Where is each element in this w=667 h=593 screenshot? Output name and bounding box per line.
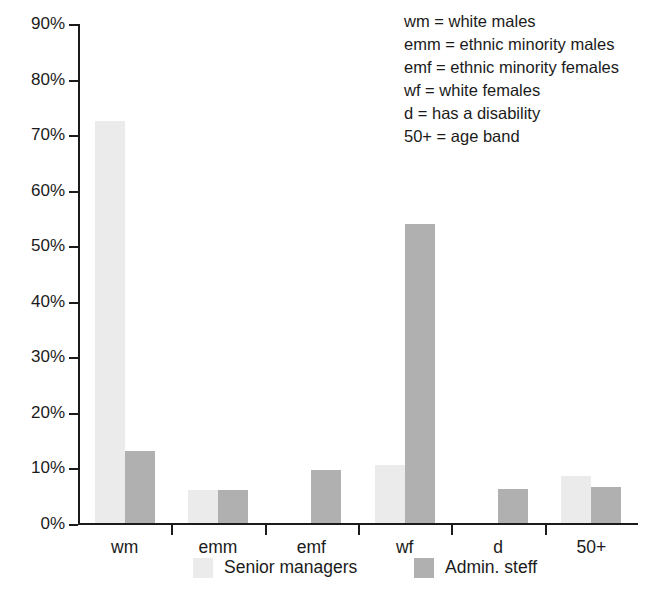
x-axis-tick — [545, 525, 547, 535]
bar-wm-series0 — [95, 121, 125, 523]
x-axis-label: 50+ — [576, 537, 606, 558]
x-axis-tick — [358, 525, 360, 535]
bar-emf-series1 — [311, 470, 341, 523]
y-axis-tick — [69, 191, 78, 193]
chart-legend: Senior managersAdmin. steff — [0, 557, 667, 587]
y-axis-label: 10% — [31, 458, 65, 478]
y-axis-label: 40% — [31, 292, 65, 312]
x-axis-label: d — [493, 537, 503, 558]
bar-d-series1 — [498, 489, 528, 523]
y-axis-tick — [69, 468, 78, 470]
legend-swatch — [414, 558, 434, 578]
y-axis-tick — [69, 80, 78, 82]
y-axis-tick — [69, 302, 78, 304]
x-axis-tick — [171, 525, 173, 535]
legend-item-senior-managers[interactable]: Senior managers — [193, 557, 357, 578]
bar-emm-series0 — [188, 490, 218, 523]
y-axis-tick — [69, 357, 78, 359]
bar-wf-series1 — [405, 224, 435, 523]
legend-item-admin-staff[interactable]: Admin. steff — [414, 557, 537, 578]
y-axis-label: 30% — [31, 347, 65, 367]
legend-swatch — [193, 558, 213, 578]
y-axis-label: 50% — [31, 236, 65, 256]
x-axis-label: emf — [297, 537, 326, 558]
y-axis-tick — [69, 524, 78, 526]
legend-label: Admin. steff — [445, 557, 537, 578]
y-axis-label: 0% — [40, 514, 65, 534]
bar-emm-series1 — [218, 490, 248, 523]
y-axis-line — [78, 24, 80, 525]
x-axis-label: wf — [396, 537, 414, 558]
y-axis-tick — [69, 24, 78, 26]
plot-area: 0%10%20%30%40%50%60%70%80%90% wmemmemfwf… — [78, 24, 638, 524]
y-axis-tick — [69, 413, 78, 415]
y-axis-tick — [69, 246, 78, 248]
x-axis-label: emm — [199, 537, 238, 558]
legend-label: Senior managers — [224, 557, 357, 578]
y-axis-tick — [69, 135, 78, 137]
y-axis-label: 90% — [31, 14, 65, 34]
bar-wm-series1 — [125, 451, 155, 523]
y-axis-label: 70% — [31, 125, 65, 145]
y-axis-label: 20% — [31, 403, 65, 423]
x-axis-tick — [451, 525, 453, 535]
y-axis-label: 60% — [31, 181, 65, 201]
y-axis-label: 80% — [31, 70, 65, 90]
x-axis-label: wm — [111, 537, 138, 558]
chart-page: wm = white males emm = ethnic minority m… — [0, 0, 667, 593]
x-axis-tick — [265, 525, 267, 535]
bar-wf-series0 — [375, 465, 405, 523]
bar-50+-series1 — [591, 487, 621, 523]
bar-50+-series0 — [561, 476, 591, 523]
